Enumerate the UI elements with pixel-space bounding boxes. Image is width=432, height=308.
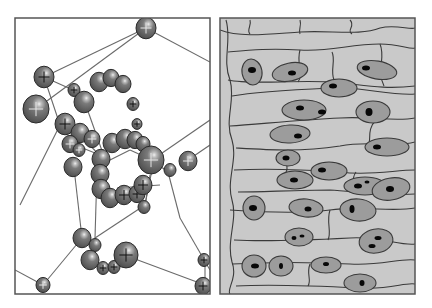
sphere — [138, 146, 164, 174]
nucleolus — [248, 67, 256, 73]
sphere — [73, 228, 91, 247]
nucleolus — [283, 156, 290, 161]
nucleolus — [249, 205, 257, 211]
sphere — [36, 277, 50, 292]
cell-nucleus — [277, 171, 313, 189]
nucleolus — [362, 66, 370, 71]
sphere — [138, 201, 150, 214]
cell-nucleus — [242, 255, 266, 277]
cell-nucleus — [276, 150, 300, 166]
sphere — [34, 66, 54, 88]
cell-nucleus — [311, 162, 347, 180]
sphere — [73, 144, 85, 157]
sphere-network-panel — [15, 17, 211, 294]
figure — [0, 0, 432, 308]
sphere — [127, 98, 139, 111]
nucleolus — [288, 71, 296, 76]
cell-nucleus — [344, 274, 376, 292]
cell-nucleus — [282, 100, 326, 120]
sphere — [84, 130, 100, 147]
sphere — [164, 164, 176, 177]
nucleolus — [300, 235, 305, 238]
sphere — [64, 157, 82, 176]
sphere — [115, 75, 131, 92]
nucleolus — [329, 84, 337, 89]
sphere — [114, 242, 138, 268]
cell-nucleus — [356, 101, 390, 123]
cell-nucleus — [321, 79, 357, 97]
nucleolus — [369, 244, 376, 248]
sphere — [179, 151, 197, 170]
sphere — [74, 91, 94, 113]
nucleolus — [318, 110, 326, 115]
nucleolus — [294, 134, 302, 139]
cell-nucleus — [311, 257, 341, 273]
nucleolus — [292, 236, 297, 240]
sphere — [134, 175, 152, 194]
nucleolus — [386, 186, 394, 192]
cell-nucleus — [365, 138, 409, 156]
sphere — [136, 17, 156, 39]
nucleolus — [290, 178, 298, 183]
nucleolus — [375, 236, 382, 240]
sphere — [89, 239, 101, 252]
nucleolus — [318, 168, 326, 173]
nucleolus — [323, 262, 329, 266]
sphere — [97, 262, 109, 275]
nucleolus — [360, 280, 365, 286]
nucleolus — [373, 145, 381, 150]
cell-nucleus — [269, 256, 293, 276]
nucleolus — [251, 264, 259, 269]
sphere — [195, 277, 211, 294]
cell-nucleus — [285, 228, 313, 246]
nucleolus — [296, 106, 304, 111]
sphere — [81, 250, 99, 269]
sphere — [23, 95, 49, 123]
nucleolus — [305, 207, 312, 212]
cell-nucleus — [243, 196, 265, 220]
sphere — [132, 119, 142, 130]
nucleolus — [354, 184, 362, 189]
cell-tissue-panel — [220, 18, 415, 294]
nucleolus — [366, 108, 373, 116]
nucleolus — [350, 205, 355, 213]
sphere — [198, 254, 210, 267]
nucleolus — [279, 263, 283, 269]
nucleolus — [365, 181, 370, 184]
